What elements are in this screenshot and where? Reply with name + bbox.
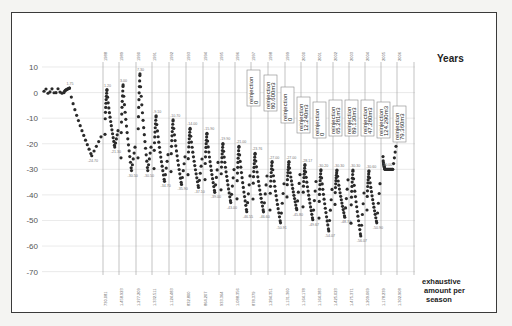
- reinjection-annotation: reinjection0: [281, 87, 294, 123]
- data-point: [211, 177, 214, 180]
- data-point: [230, 193, 233, 196]
- data-point: [340, 198, 343, 201]
- svg-text:65.281m3: 65.281m3: [335, 107, 341, 134]
- data-point: [124, 111, 127, 114]
- data-point: [306, 189, 309, 192]
- data-point: [138, 79, 141, 82]
- data-point: [352, 177, 355, 180]
- data-point: [376, 211, 379, 214]
- data-point: [159, 151, 162, 154]
- data-point: [367, 169, 370, 172]
- data-point: [72, 102, 75, 105]
- svg-text:80.600m3: 80.600m3: [270, 82, 276, 109]
- data-point: [142, 126, 145, 129]
- data-point: [160, 160, 163, 163]
- data-point: [220, 166, 223, 169]
- data-point: [292, 194, 295, 197]
- data-point: [204, 150, 207, 153]
- data-point: [381, 155, 384, 158]
- year-label: 1988: [103, 51, 108, 61]
- data-point: [226, 183, 229, 186]
- data-point: [242, 186, 245, 189]
- data-point: [122, 95, 125, 98]
- data-point: [351, 173, 354, 176]
- data-point: [214, 183, 217, 186]
- data-point: [103, 133, 106, 136]
- data-point: [145, 160, 148, 163]
- data-point: [290, 179, 293, 182]
- data-point: [171, 123, 174, 126]
- data-point: [137, 127, 140, 130]
- data-point: [394, 150, 397, 153]
- data-point: [333, 203, 336, 206]
- data-point: [319, 168, 322, 171]
- exhaustive-amount-label: 1.302.908: [397, 287, 402, 306]
- data-point: [248, 183, 251, 186]
- data-point: [303, 163, 306, 166]
- data-point: [301, 205, 304, 208]
- data-point: [375, 221, 378, 224]
- data-point: [212, 181, 215, 184]
- data-point: [200, 157, 203, 160]
- data-point: [256, 175, 259, 178]
- data-point: [240, 176, 243, 179]
- data-point: [170, 152, 173, 155]
- data-point: [203, 178, 206, 181]
- data-point: [273, 180, 276, 183]
- peak-label: 7.30: [137, 68, 144, 72]
- data-point: [172, 127, 175, 130]
- data-point: [269, 192, 272, 195]
- data-point: [122, 83, 125, 86]
- data-point: [358, 228, 361, 231]
- data-point: [237, 145, 240, 148]
- exhaustive-amount-label: 730.081: [103, 291, 108, 306]
- exhaustive-amount-label: 1.124.483: [169, 287, 174, 306]
- data-point: [166, 153, 169, 156]
- data-point: [370, 194, 373, 197]
- data-point: [354, 200, 357, 203]
- data-point: [222, 150, 225, 153]
- data-point: [157, 135, 160, 138]
- data-point: [269, 185, 272, 188]
- exhaustive-amount-label: 1.294.351: [268, 287, 273, 306]
- data-point: [154, 119, 157, 122]
- data-point: [108, 111, 111, 114]
- year-label: 1992: [169, 51, 174, 61]
- data-point: [350, 190, 353, 193]
- data-point: [114, 141, 117, 144]
- data-point: [138, 72, 141, 75]
- data-point: [305, 181, 308, 184]
- data-point: [137, 106, 140, 109]
- data-point: [373, 209, 376, 212]
- data-point: [323, 202, 326, 205]
- data-point: [236, 179, 239, 182]
- data-point: [188, 131, 191, 134]
- data-point: [121, 89, 124, 92]
- data-point: [178, 172, 181, 175]
- data-point: [309, 205, 312, 208]
- data-point: [143, 140, 146, 143]
- data-point: [219, 188, 222, 191]
- data-point: [334, 191, 337, 194]
- data-point: [176, 159, 179, 162]
- data-point: [153, 141, 156, 144]
- data-point: [84, 139, 87, 142]
- data-point: [208, 155, 211, 158]
- data-point: [112, 136, 115, 139]
- data-point: [275, 199, 278, 202]
- data-point: [317, 217, 320, 220]
- data-point: [213, 191, 216, 194]
- data-point: [346, 178, 349, 181]
- data-point: [355, 205, 358, 208]
- data-point: [209, 164, 212, 167]
- exhaustive-amount-label: 1.178.239: [381, 287, 386, 306]
- data-point: [350, 196, 353, 199]
- data-point: [155, 114, 158, 117]
- data-point: [170, 139, 173, 142]
- data-point: [356, 215, 359, 218]
- peak-label: -30.60: [366, 165, 376, 169]
- data-point: [99, 135, 102, 138]
- bottom-axis-title-3: season: [426, 295, 452, 304]
- reinjection-annotation: reinjection65.281m3: [329, 100, 342, 136]
- data-point: [120, 131, 123, 134]
